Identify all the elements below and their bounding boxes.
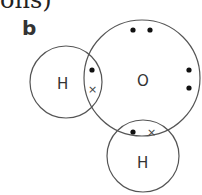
hydrogen-bonding-cross: × <box>88 83 97 96</box>
oxygen-electron-dot <box>186 67 191 72</box>
oxygen-electron-dot <box>186 85 191 90</box>
hydrogen-bonding-cross: × <box>147 126 156 139</box>
oxygen-bonding-dot <box>130 129 135 134</box>
oxygen-electron-dot <box>130 27 135 32</box>
oxygen-electron-dot <box>147 27 152 32</box>
oxygen-label: O <box>137 72 149 90</box>
hydrogen-left-label: H <box>57 75 68 93</box>
oxygen-bonding-dot <box>89 67 94 72</box>
water-dot-cross-diagram: H O H × × <box>0 0 202 195</box>
hydrogen-bottom-label: H <box>137 154 148 172</box>
